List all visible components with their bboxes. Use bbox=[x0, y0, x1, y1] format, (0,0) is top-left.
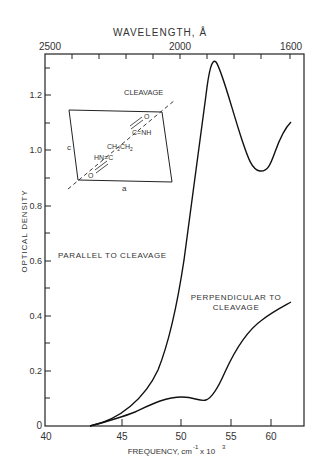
x-tick-55: 55 bbox=[225, 431, 237, 442]
inset-cleavage-label: CLEAVAGE bbox=[124, 88, 163, 97]
y-tick-0.6: 0.6 bbox=[29, 256, 42, 266]
inset-ch2-ch2: CH2CH2 bbox=[107, 143, 133, 152]
inset-hn-c: HN=C bbox=[94, 154, 113, 161]
plot-frame bbox=[45, 54, 304, 426]
inset-axis-c: c bbox=[67, 143, 71, 152]
wavelength-axis-title: WAVELENGTH, Å bbox=[113, 26, 207, 38]
x-axis-title: FREQUENCY, cm bbox=[128, 447, 193, 456]
y-tick-1.2: 1.2 bbox=[29, 90, 42, 100]
x-axis-title-sup2: 3 bbox=[222, 444, 226, 450]
inset-oxygen-bottom: O bbox=[88, 172, 94, 179]
y-tick-0.8: 0.8 bbox=[29, 201, 42, 211]
perpendicular-annotation-line2: CLEAVAGE bbox=[213, 303, 260, 312]
parallel-annotation: PARALLEL TO CLEAVAGE bbox=[58, 251, 167, 260]
crystal-inset: CLEAVAGE c a O C=NH CH2CH2 HN=C O bbox=[67, 88, 175, 193]
parallel-curve bbox=[90, 61, 291, 426]
top-axis-ticks bbox=[72, 54, 290, 59]
y-tick-1.0: 1.0 bbox=[29, 145, 42, 155]
y-tick-0.2: 0.2 bbox=[29, 366, 42, 376]
wavelength-tick-2500: 2500 bbox=[39, 41, 62, 52]
y-axis-title: OPTICAL DENSITY bbox=[20, 190, 29, 273]
x-axis-title-sup: -1 bbox=[193, 444, 199, 450]
inset-oxygen-top: O bbox=[144, 113, 150, 120]
optical-density-chart: WAVELENGTH, Å 2500 2000 1600 40 45 50 55… bbox=[0, 0, 320, 472]
x-tick-50: 50 bbox=[175, 431, 187, 442]
x-tick-40: 40 bbox=[40, 431, 52, 442]
x-axis-ticks bbox=[122, 419, 271, 426]
wavelength-tick-2000: 2000 bbox=[169, 41, 192, 52]
y-tick-0: 0 bbox=[36, 420, 42, 431]
inset-c-nh: C=NH bbox=[132, 129, 151, 136]
x-tick-60: 60 bbox=[265, 431, 277, 442]
y-tick-0.4: 0.4 bbox=[29, 311, 42, 321]
perpendicular-curve bbox=[90, 302, 291, 426]
y-axis-ticks bbox=[45, 68, 51, 398]
inset-axis-a: a bbox=[122, 184, 127, 193]
x-axis-title-tail: x 10 bbox=[200, 447, 216, 456]
perpendicular-annotation-line1: PERPENDICULAR TO bbox=[191, 293, 282, 302]
wavelength-tick-1600: 1600 bbox=[280, 41, 303, 52]
x-tick-45: 45 bbox=[116, 431, 128, 442]
